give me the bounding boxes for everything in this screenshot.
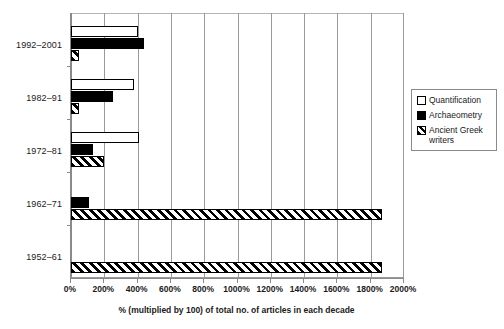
bar-ancient-greek-writers — [71, 262, 382, 273]
y-axis-tick-label: 1982–91 — [26, 93, 62, 103]
bar-archaeometry — [71, 144, 93, 155]
x-axis-tick — [336, 278, 337, 283]
x-axis-tick-labels: 0%200%400%600%800%1000%1200%1400%1600%18… — [0, 284, 504, 298]
x-axis-tick-label: 1600% — [323, 284, 349, 294]
x-axis-tick — [270, 278, 271, 283]
hatched-square-swatch-icon — [417, 126, 426, 135]
x-axis-tick — [303, 278, 304, 283]
bar-archaeometry — [71, 91, 113, 102]
x-axis-tick — [203, 278, 204, 283]
plot-area — [70, 13, 403, 278]
x-axis-tick — [403, 278, 404, 283]
bar-quantification — [71, 26, 138, 37]
x-axis-tick-label: 1000% — [223, 284, 249, 294]
x-axis-tick — [103, 278, 104, 283]
x-axis-tick — [170, 278, 171, 283]
bar-archaeometry — [71, 38, 144, 49]
filled-square-swatch-icon — [417, 111, 426, 120]
bar-ancient-greek-writers — [71, 50, 79, 61]
y-axis-tick-label: 1952–61 — [26, 252, 62, 262]
y-axis-tick-label: 1962–71 — [26, 199, 62, 209]
x-axis-tick-label: 400% — [126, 284, 148, 294]
bar-quantification — [71, 132, 139, 143]
gridline-2000 — [403, 13, 404, 278]
x-axis-tick — [237, 278, 238, 283]
open-square-swatch-icon — [417, 96, 426, 105]
legend: Quantification Archaeometry Ancient Gree… — [411, 89, 497, 151]
bar-ancient-greek-writers — [71, 103, 79, 114]
x-axis — [70, 278, 403, 279]
x-axis-tick-label: 1200% — [257, 284, 283, 294]
y-axis-tick-label: 1992–2001 — [16, 40, 62, 50]
x-axis-tick — [70, 278, 71, 283]
legend-item-label: Archaeometry — [429, 110, 482, 120]
x-axis-tick — [370, 278, 371, 283]
x-axis-tick-label: 1800% — [356, 284, 382, 294]
x-axis-tick-label: 2000% — [390, 284, 416, 294]
x-axis-tick-label: 0% — [64, 284, 76, 294]
x-axis-tick-label: 1400% — [290, 284, 316, 294]
legend-item: Ancient Greek writers — [417, 125, 492, 145]
y-axis-tick-label: 1972–81 — [26, 146, 62, 156]
y-axis-tick — [67, 66, 71, 67]
bar-quantification — [71, 79, 134, 90]
y-axis-tick — [67, 119, 71, 120]
chart-figure: 1992–2001 1982–91 1972–81 1962–71 1952–6… — [0, 0, 504, 329]
bar-series-container — [71, 13, 403, 278]
bar-ancient-greek-writers — [71, 156, 104, 167]
legend-item-label: Quantification — [429, 95, 481, 105]
y-axis-tick — [67, 225, 71, 226]
bar-archaeometry — [71, 197, 89, 208]
x-axis-tick-label: 200% — [92, 284, 114, 294]
bar-ancient-greek-writers — [71, 209, 382, 220]
x-axis-tick-label: 800% — [192, 284, 214, 294]
y-axis-tick — [67, 172, 71, 173]
legend-item: Archaeometry — [417, 110, 492, 120]
legend-item: Quantification — [417, 95, 492, 105]
y-axis-labels: 1992–2001 1982–91 1972–81 1962–71 1952–6… — [0, 13, 70, 278]
x-axis-tick — [137, 278, 138, 283]
legend-item-label: Ancient Greek writers — [429, 125, 492, 145]
x-axis-tick-label: 600% — [159, 284, 181, 294]
x-axis-title: % (multiplied by 100) of total no. of ar… — [70, 305, 403, 315]
